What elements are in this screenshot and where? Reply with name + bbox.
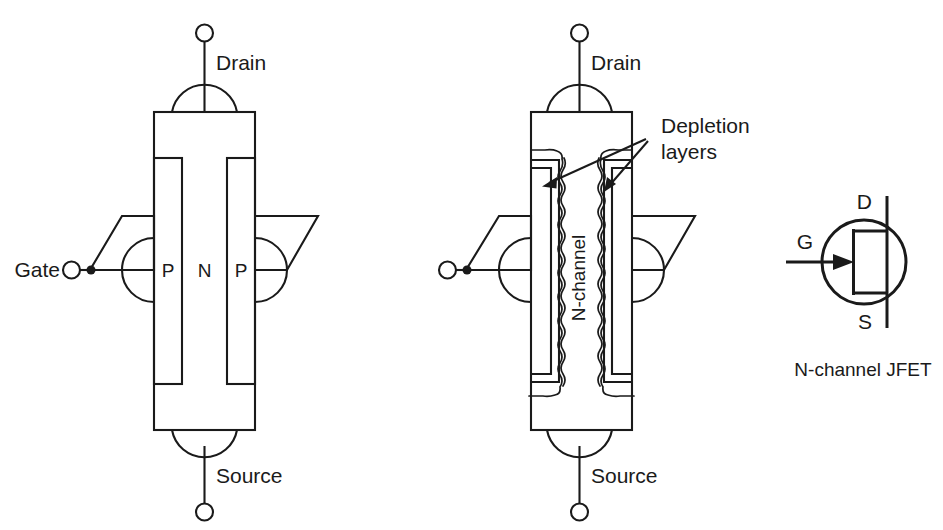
depletion-inner-outline-right (612, 168, 632, 374)
n-channel-label: N-channel (568, 235, 589, 322)
diagram-middle-depletion: Depletion layers Drain Source N-channel (439, 25, 750, 521)
source-label-left: Source (216, 464, 283, 487)
source-label-middle: Source (591, 464, 658, 487)
source-terminal-middle (571, 504, 588, 521)
symbol-caption: N-channel JFET (794, 359, 932, 380)
gate-terminal-middle (439, 262, 456, 279)
drain-terminal-left (196, 25, 213, 42)
region-label-n-center: N (198, 260, 212, 281)
depletion-annotation-line2: layers (661, 140, 717, 163)
depletion-inner-outline-left (531, 168, 551, 374)
gate-label-left: Gate (14, 258, 60, 281)
gate-plate-left-middle (466, 216, 531, 270)
symbol-gate-label: G (797, 230, 813, 253)
depletion-arrow-long-head (542, 177, 557, 189)
gate-junction-dot-left (87, 266, 96, 275)
diagram-right-symbol: D S G N-channel JFET (786, 190, 932, 380)
gate-terminal-left (63, 262, 80, 279)
p-region-right-middle (604, 160, 632, 382)
diagram-left-structure: Drain Source Gate P N P (14, 25, 318, 521)
jfet-figure-canvas: Drain Source Gate P N P (0, 0, 943, 530)
symbol-source-label: S (858, 310, 872, 333)
source-terminal-left (196, 504, 213, 521)
region-label-p-right: P (235, 260, 248, 281)
symbol-gate-arrowhead (833, 254, 854, 270)
drain-label-middle: Drain (591, 51, 641, 74)
jfet-figure: Drain Source Gate P N P (0, 0, 943, 530)
region-label-p-left: P (162, 260, 175, 281)
depletion-annotation-line1: Depletion (661, 114, 750, 137)
drain-terminal-middle (571, 25, 588, 42)
symbol-drain-label: D (857, 190, 872, 213)
drain-label-left: Drain (216, 51, 266, 74)
gate-junction-dot-middle (463, 266, 472, 275)
p-region-left-middle (531, 160, 559, 382)
